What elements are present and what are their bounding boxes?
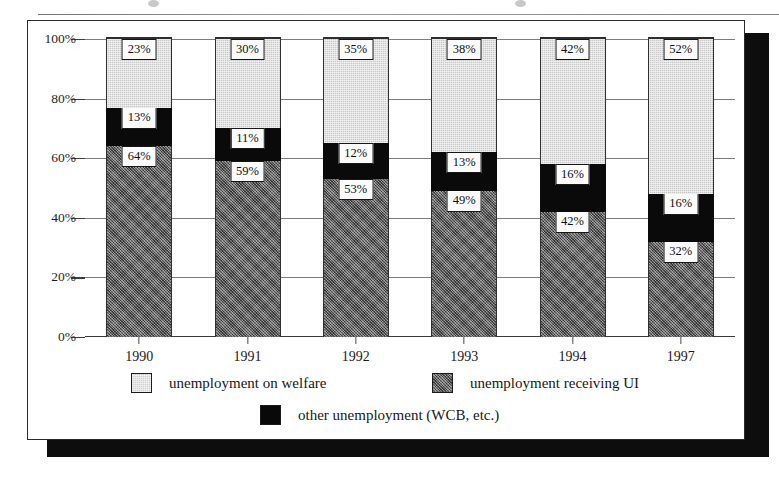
value-label-ui-1990: 64%	[122, 146, 157, 168]
bar-segment-ui-1991[interactable]	[215, 161, 281, 337]
value-label-ui-1992: 53%	[338, 179, 373, 201]
value-label-welfare-1994: 42%	[555, 39, 590, 61]
legend-item-welfare[interactable]: unemployment on welfare	[131, 373, 326, 393]
y-axis-tick-label: 60%	[51, 151, 76, 165]
value-label-other-1993: 13%	[447, 152, 482, 174]
scan-speck	[148, 0, 159, 7]
y-axis-tick-label: 80%	[51, 92, 76, 106]
bar-column-1990[interactable]: 64%13%23%	[106, 39, 172, 337]
bar-top-cap	[215, 37, 281, 39]
x-axis-tick	[680, 337, 681, 344]
value-label-other-1997: 16%	[663, 193, 698, 215]
value-label-welfare-1991: 30%	[230, 39, 265, 61]
x-axis-label-1997: 1997	[667, 350, 695, 364]
bar-top-cap	[540, 37, 606, 39]
bar-column-1994[interactable]: 42%16%42%	[540, 39, 606, 337]
gridline	[85, 158, 735, 159]
value-label-other-1990: 13%	[122, 107, 157, 129]
y-axis-tick-label: 0%	[58, 330, 76, 344]
x-axis-line	[85, 336, 735, 337]
gridline	[85, 277, 735, 278]
value-label-other-1994: 16%	[555, 164, 590, 186]
x-axis-tick	[247, 337, 248, 344]
value-label-ui-1997: 32%	[663, 241, 698, 263]
other-swatch-icon	[260, 405, 281, 425]
x-axis-label-1992: 1992	[342, 350, 370, 364]
x-axis-tick	[355, 337, 356, 344]
value-label-other-1991: 11%	[230, 128, 264, 150]
x-axis-label-1994: 1994	[559, 350, 587, 364]
gridline	[85, 39, 735, 40]
bar-column-1997[interactable]: 32%16%52%	[648, 39, 714, 337]
bar-top-cap	[431, 37, 497, 39]
legend-label-welfare: unemployment on welfare	[169, 376, 326, 391]
chart-figure: 0%20%40%60%80%100%64%13%23%199059%11%30%…	[27, 20, 745, 440]
value-label-ui-1991: 59%	[230, 161, 265, 183]
legend-item-ui[interactable]: unemployment receiving UI	[432, 373, 639, 393]
x-axis-label-1993: 1993	[450, 350, 478, 364]
value-label-welfare-1990: 23%	[122, 39, 157, 61]
welfare-swatch-icon	[131, 373, 152, 393]
bar-segment-welfare-1997[interactable]	[648, 39, 714, 194]
value-label-welfare-1992: 35%	[338, 39, 373, 61]
y-axis-tick-label: 20%	[51, 271, 76, 285]
value-label-welfare-1997: 52%	[663, 39, 698, 61]
legend-item-other[interactable]: other unemployment (WCB, etc.)	[260, 405, 499, 425]
bar-column-1992[interactable]: 53%12%35%	[323, 39, 389, 337]
x-axis-label-1991: 1991	[234, 350, 262, 364]
bar-top-cap	[648, 37, 714, 39]
bar-top-cap	[323, 37, 389, 39]
bar-segment-ui-1993[interactable]	[431, 191, 497, 337]
x-axis-label-1990: 1990	[125, 350, 153, 364]
bar-column-1993[interactable]: 49%13%38%	[431, 39, 497, 337]
y-axis-tick-label: 40%	[51, 211, 76, 225]
gridline	[85, 99, 735, 100]
page-rule	[38, 14, 779, 15]
value-label-ui-1993: 49%	[447, 190, 482, 212]
x-axis-tick	[139, 337, 140, 344]
plot-area: 0%20%40%60%80%100%64%13%23%199059%11%30%…	[85, 39, 735, 337]
ui-swatch-icon	[432, 373, 453, 393]
x-axis-tick	[572, 337, 573, 344]
y-axis-tick-label: 100%	[45, 32, 77, 46]
x-axis-tick	[464, 337, 465, 344]
value-label-other-1992: 12%	[338, 143, 373, 165]
scan-speck	[515, 0, 526, 7]
value-label-ui-1994: 42%	[555, 211, 590, 233]
legend-label-other: other unemployment (WCB, etc.)	[298, 408, 499, 423]
bar-top-cap	[106, 37, 172, 39]
gridline	[85, 218, 735, 219]
bar-segment-ui-1990[interactable]	[106, 146, 172, 337]
bar-segment-ui-1992[interactable]	[323, 179, 389, 337]
legend-label-ui: unemployment receiving UI	[470, 376, 639, 391]
bar-column-1991[interactable]: 59%11%30%	[215, 39, 281, 337]
value-label-welfare-1993: 38%	[447, 39, 482, 61]
